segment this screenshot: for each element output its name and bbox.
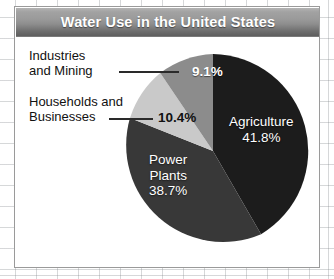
callout-industries-line2: and Mining [29,63,93,78]
leader-line-industries [119,71,179,73]
leader-line-households [109,118,153,120]
chart-panel: Water Use in the United States Industrie… [14,6,320,268]
chart-title-bar: Water Use in the United States [16,8,320,37]
slice-label-power-value: 38.7% [149,183,187,199]
callout-industries-line1: Industries [29,48,93,63]
slice-label-agriculture-name: Agriculture [229,114,294,130]
callout-households-line1: Households and [29,94,123,109]
slice-label-agriculture: Agriculture 41.8% [229,114,294,145]
slice-label-power-line2: Plants [149,168,187,184]
callout-households-line2: Businesses [29,109,123,124]
pie-chart-area: Industries and Mining Households and Bus… [15,36,319,268]
slice-label-agriculture-value: 41.8% [229,130,294,146]
value-label-households: 10.4% [158,110,196,125]
slice-label-power-line1: Power [149,152,187,168]
slice-label-power-plants: Power Plants 38.7% [149,152,187,199]
value-label-industries: 9.1% [192,64,223,79]
callout-industries-mining: Industries and Mining [29,48,93,78]
chart-title: Water Use in the United States [61,14,275,30]
